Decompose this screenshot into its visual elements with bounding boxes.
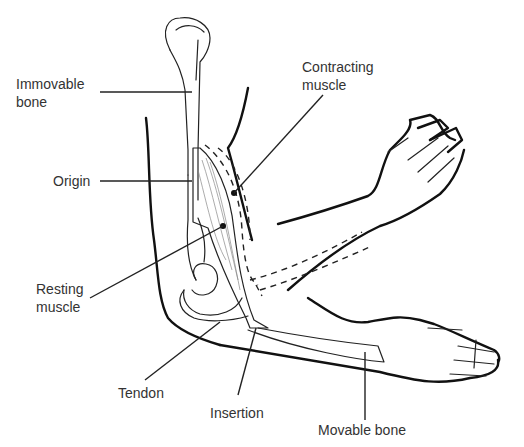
leader-resting-muscle bbox=[90, 226, 223, 298]
label-immovable-bone: Immovable bone bbox=[16, 75, 84, 111]
label-contracting-muscle: Contracting muscle bbox=[302, 58, 374, 94]
arm-illustration bbox=[0, 0, 524, 447]
humerus-bone bbox=[165, 18, 248, 321]
leader-insertion bbox=[238, 328, 256, 395]
forearm-raised bbox=[250, 115, 464, 296]
label-insertion: Insertion bbox=[210, 404, 264, 422]
leader-contracting-muscle bbox=[234, 95, 323, 193]
label-resting-muscle: Resting muscle bbox=[36, 280, 83, 316]
forearm-extended bbox=[220, 298, 499, 382]
label-movable-bone: Movable bone bbox=[318, 421, 406, 439]
elbow-muscle-diagram: Immovable bone Contracting muscle Origin… bbox=[0, 0, 524, 447]
leader-lines bbox=[90, 92, 365, 420]
label-tendon: Tendon bbox=[118, 384, 164, 402]
label-origin: Origin bbox=[53, 172, 90, 190]
